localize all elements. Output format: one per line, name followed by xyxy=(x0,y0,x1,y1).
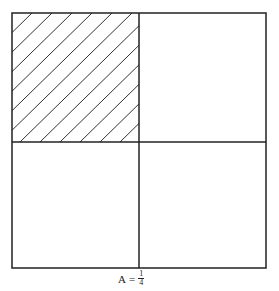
area-caption: A = 1 4 xyxy=(118,270,144,287)
fraction-denominator: 4 xyxy=(139,279,143,287)
area-variable: A xyxy=(118,273,126,285)
hatched-quadrant xyxy=(0,13,252,142)
fraction-square-diagram xyxy=(0,0,279,291)
fraction-numerator: 1 xyxy=(139,270,143,278)
fraction: 1 4 xyxy=(138,270,144,287)
equals-sign: = xyxy=(129,273,135,285)
